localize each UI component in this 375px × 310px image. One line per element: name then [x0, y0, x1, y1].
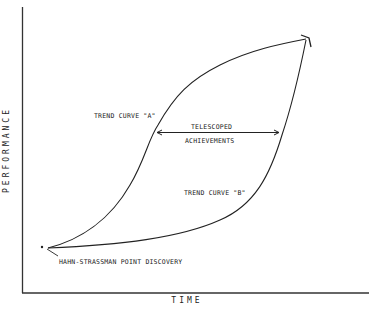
telescoped-label-2: ACHIEVEMENTS	[185, 137, 234, 145]
telescoped-label-1: TELESCOPED	[191, 123, 232, 131]
start-point-dot	[41, 246, 43, 248]
curve-a-label: TREND CURVE "A"	[94, 112, 156, 120]
y-axis-label: PERFORMANCE	[2, 107, 11, 193]
start-point-label: HAHN-STRASSMAN POINT DISCOVERY	[59, 258, 182, 266]
curve-b-label: TREND CURVE "B"	[184, 189, 246, 197]
x-axis-label: TIME	[171, 296, 202, 305]
trend-curve-b	[48, 40, 306, 248]
start-leader-line	[47, 249, 58, 256]
trend-curve-a	[48, 39, 306, 248]
chart-canvas	[0, 0, 375, 310]
